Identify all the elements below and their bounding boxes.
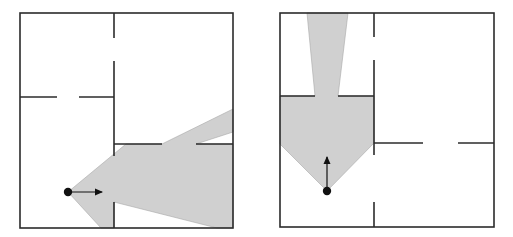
viewpoint-dot (323, 187, 331, 195)
visibility-region (68, 109, 233, 228)
right-floor-plan (280, 13, 494, 227)
viewpoint-dot (64, 188, 72, 196)
floor-plan-diagram (0, 0, 513, 237)
left-floor-plan (20, 13, 233, 228)
